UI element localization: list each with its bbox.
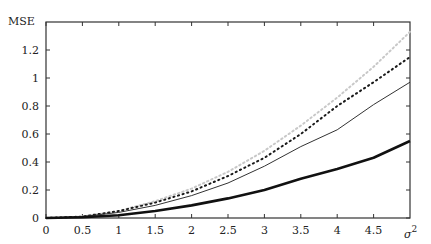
x-tick-label: 0 xyxy=(43,224,50,237)
y-axis-label: MSE xyxy=(8,15,35,28)
x-tick-label: 4.5 xyxy=(365,224,383,237)
x-axis-label: σ2 xyxy=(404,224,417,241)
x-tick-label: 3 xyxy=(261,224,268,237)
series-light-dotted xyxy=(46,32,410,218)
x-tick-label: 2.5 xyxy=(219,224,237,237)
plot-frame xyxy=(46,22,410,218)
mse-line-chart: 00.20.40.60.811.200.511.522.533.544.5 MS… xyxy=(0,0,431,244)
x-tick-label: 1 xyxy=(115,224,122,237)
y-tick-label: 1 xyxy=(32,72,39,85)
y-tick-label: 0 xyxy=(32,212,39,225)
axis-ticks: 00.20.40.60.811.200.511.522.533.544.5 xyxy=(22,22,411,237)
x-tick-label: 2 xyxy=(188,224,195,237)
x-tick-label: 3.5 xyxy=(292,224,310,237)
data-series xyxy=(46,32,410,218)
x-tick-label: 1.5 xyxy=(146,224,164,237)
y-tick-label: 0.2 xyxy=(22,184,40,197)
plot-border xyxy=(46,22,410,218)
y-tick-label: 0.8 xyxy=(22,100,40,113)
x-tick-label: 0.5 xyxy=(74,224,92,237)
x-tick-label: 4 xyxy=(334,224,341,237)
series-thick-solid xyxy=(46,141,410,218)
y-tick-label: 0.6 xyxy=(22,128,40,141)
y-tick-label: 0.4 xyxy=(22,156,40,169)
y-tick-label: 1.2 xyxy=(22,44,40,57)
